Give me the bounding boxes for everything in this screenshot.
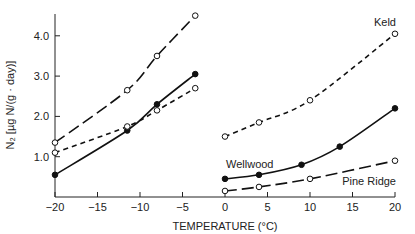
label-pine-ridge: Pine Ridge bbox=[342, 175, 396, 187]
y-axis-label: N₂ [µg N/(g · day)] bbox=[4, 61, 16, 150]
svg-text:20: 20 bbox=[389, 201, 401, 213]
label-keld: Keld bbox=[374, 16, 396, 28]
svg-text:−10: −10 bbox=[131, 201, 150, 213]
svg-text:−20: −20 bbox=[46, 201, 65, 213]
svg-text:−15: −15 bbox=[88, 201, 107, 213]
svg-text:2.0: 2.0 bbox=[34, 110, 49, 122]
svg-text:4.0: 4.0 bbox=[34, 30, 49, 42]
plot-area bbox=[52, 13, 398, 194]
svg-text:15: 15 bbox=[346, 201, 358, 213]
svg-text:0: 0 bbox=[222, 201, 228, 213]
x-axis-label: TEMPERATURE (°C) bbox=[172, 220, 277, 232]
svg-text:−5: −5 bbox=[176, 201, 189, 213]
label-wellwood: Wellwood bbox=[226, 158, 274, 170]
chart: −20−15−10−505101520 1.02.03.04.0 TEMPERA… bbox=[0, 0, 415, 234]
x-ticks: −20−15−10−505101520 bbox=[46, 192, 401, 213]
svg-text:10: 10 bbox=[304, 201, 316, 213]
svg-text:3.0: 3.0 bbox=[34, 70, 49, 82]
svg-text:1.0: 1.0 bbox=[34, 151, 49, 163]
svg-text:5: 5 bbox=[264, 201, 270, 213]
